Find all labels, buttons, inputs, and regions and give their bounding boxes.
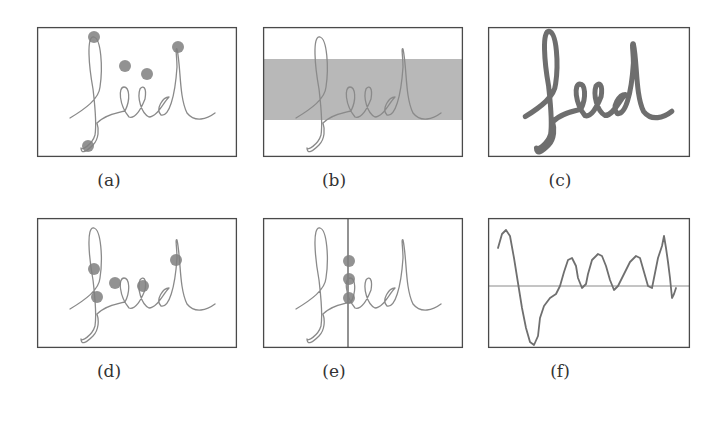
signal-curve xyxy=(498,230,676,345)
panel-f-caption: (f) xyxy=(530,361,590,381)
feature-point-marker xyxy=(82,140,94,152)
panel-a-graphic xyxy=(37,27,237,157)
panel-a-caption: (a) xyxy=(79,170,139,190)
feature-point-marker xyxy=(141,68,153,80)
panel-d xyxy=(37,218,237,348)
feature-point-marker xyxy=(343,255,355,267)
panel-f xyxy=(488,218,690,348)
feature-point-marker xyxy=(343,273,355,285)
feature-point-marker xyxy=(109,277,121,289)
panel-e xyxy=(263,218,463,348)
feature-point-marker xyxy=(119,60,131,72)
feature-point-marker xyxy=(91,291,103,303)
panel-e-caption: (e) xyxy=(304,361,364,381)
panel-c-caption: (c) xyxy=(530,170,590,190)
panel-b-caption: (b) xyxy=(304,170,364,190)
feature-point-marker xyxy=(88,263,100,275)
panel-border xyxy=(38,219,237,348)
core-zone-band xyxy=(263,59,463,120)
handwriting-stroke xyxy=(70,37,215,152)
handwriting-stroke-thick xyxy=(525,31,672,152)
panel-border xyxy=(264,219,463,348)
panel-a xyxy=(37,27,237,157)
panel-border xyxy=(38,28,237,157)
panel-c xyxy=(488,27,690,157)
handwriting-stroke xyxy=(296,228,441,343)
panel-b-graphic xyxy=(263,27,463,157)
panel-f-graphic xyxy=(488,218,690,348)
panel-border xyxy=(489,28,690,157)
panel-c-graphic xyxy=(488,27,690,157)
feature-point-marker xyxy=(172,41,184,53)
feature-point-marker xyxy=(343,292,355,304)
feature-point-marker xyxy=(88,31,100,43)
panel-b xyxy=(263,27,463,157)
panel-d-caption: (d) xyxy=(79,361,139,381)
feature-point-marker xyxy=(170,254,182,266)
panel-d-graphic xyxy=(37,218,237,348)
feature-point-marker xyxy=(137,280,149,292)
panel-e-graphic xyxy=(263,218,463,348)
